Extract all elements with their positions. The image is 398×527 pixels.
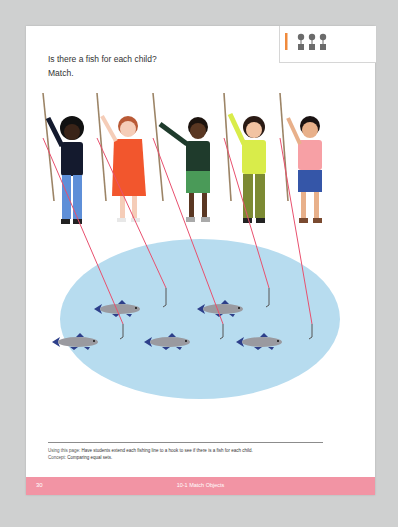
using-text: Have students extend each fishing line t… (82, 448, 253, 453)
child-3 (160, 117, 210, 222)
divider (48, 442, 323, 443)
lesson-title: 10-1 Match Objects (26, 482, 375, 488)
worksheet-page: Is there a fish for each child? Match. (26, 26, 375, 495)
concept-label: Concept: (48, 455, 66, 460)
child-5 (288, 116, 322, 223)
using-label: Using this page: (48, 448, 80, 453)
fishing-illustration (26, 26, 375, 495)
child-2 (102, 116, 146, 222)
child-1 (48, 116, 84, 224)
teacher-note: Using this page: Have students extend ea… (48, 448, 253, 461)
page-footer: 30 10-1 Match Objects (26, 477, 375, 495)
concept-text: Comparing equal sets. (67, 455, 112, 460)
child-4 (230, 114, 266, 223)
